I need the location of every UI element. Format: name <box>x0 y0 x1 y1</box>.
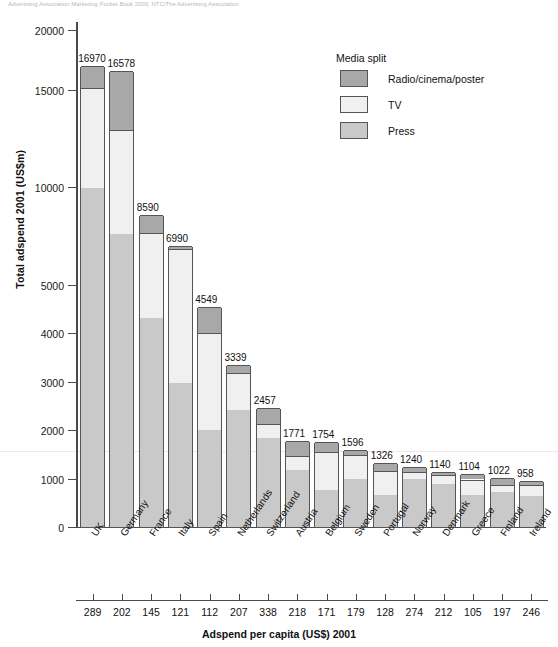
segment-radio-cinema-poster[interactable] <box>461 474 484 480</box>
bar-group[interactable]: 8590 <box>139 22 164 528</box>
x-axis-title: Adspend per capita (US$) 2001 <box>0 628 558 640</box>
bar-group[interactable]: 3339 <box>226 22 251 528</box>
segment-tv[interactable] <box>432 475 455 484</box>
y-tick-label-10000: 10000 <box>2 183 64 193</box>
segment-press[interactable] <box>81 188 104 527</box>
y-tick-label-2000: 2000 <box>2 426 64 436</box>
stacked-bar[interactable] <box>168 247 193 528</box>
legend-label-press: Press <box>388 125 415 137</box>
segment-tv[interactable] <box>403 472 426 479</box>
segment-press[interactable] <box>169 383 192 527</box>
segment-tv[interactable] <box>491 485 514 493</box>
bar-value-label: 958 <box>517 469 534 479</box>
segment-radio-cinema-poster[interactable] <box>81 66 104 87</box>
segment-tv[interactable] <box>344 455 367 479</box>
per-capita-tick <box>531 594 532 601</box>
y-tick-label-1000: 1000 <box>2 475 64 485</box>
bar-value-label: 1022 <box>488 466 510 476</box>
chart-canvas: Advertising Association Marketing Pocket… <box>0 0 558 647</box>
stacked-bar[interactable] <box>226 366 251 528</box>
segment-radio-cinema-poster[interactable] <box>257 408 280 423</box>
segment-tv[interactable] <box>140 233 163 318</box>
y-tick-3000 <box>68 382 76 383</box>
per-capita-tick <box>473 594 474 601</box>
per-capita-axis-line <box>76 600 548 601</box>
segment-radio-cinema-poster[interactable] <box>169 246 192 249</box>
y-tick-10000 <box>68 187 76 188</box>
segment-tv[interactable] <box>257 424 280 438</box>
per-capita-tick <box>356 594 357 601</box>
bar-group[interactable]: 6990 <box>168 22 193 528</box>
segment-tv[interactable] <box>520 485 543 496</box>
segment-press[interactable] <box>110 234 133 527</box>
segment-tv[interactable] <box>110 130 133 234</box>
bar-group[interactable]: 16970 <box>80 22 105 528</box>
legend: Media split Radio/cinema/posterTVPress <box>336 52 526 138</box>
per-capita-tick <box>385 594 386 601</box>
stacked-bar[interactable] <box>109 72 134 528</box>
per-capita-tick <box>210 594 211 601</box>
y-tick-15000 <box>68 90 76 91</box>
per-capita-tick <box>122 594 123 601</box>
segment-radio-cinema-poster[interactable] <box>198 307 221 333</box>
per-capita-tick <box>502 594 503 601</box>
segment-tv[interactable] <box>461 480 484 496</box>
segment-radio-cinema-poster[interactable] <box>374 463 397 471</box>
bar-value-label: 16970 <box>78 54 106 64</box>
legend-label-tv: TV <box>388 99 401 111</box>
bar-value-label: 8590 <box>137 203 159 213</box>
y-axis-tick-labels: 010002000300040005000100001500020000 <box>0 22 64 528</box>
per-capita-tick <box>151 594 152 601</box>
bar-value-label: 1754 <box>312 430 334 440</box>
y-tick-2000 <box>68 430 76 431</box>
per-capita-tick <box>297 594 298 601</box>
segment-radio-cinema-poster[interactable] <box>491 478 514 485</box>
segment-press[interactable] <box>140 318 163 527</box>
segment-tv[interactable] <box>286 456 309 470</box>
segment-radio-cinema-poster[interactable] <box>140 215 163 234</box>
stacked-bar[interactable] <box>197 308 222 528</box>
segment-radio-cinema-poster[interactable] <box>403 467 426 471</box>
segment-press[interactable] <box>227 410 250 527</box>
per-capita-tick <box>268 594 269 601</box>
stacked-bar[interactable] <box>139 216 164 528</box>
bar-value-label: 1326 <box>371 451 393 461</box>
segment-radio-cinema-poster[interactable] <box>315 442 338 452</box>
stacked-bar[interactable] <box>80 67 105 528</box>
segment-tv[interactable] <box>374 471 397 495</box>
segment-radio-cinema-poster[interactable] <box>286 441 309 456</box>
per-capita-tick <box>414 594 415 601</box>
segment-tv[interactable] <box>227 373 250 410</box>
bar-group[interactable]: 1771 <box>285 22 310 528</box>
segment-radio-cinema-poster[interactable] <box>227 365 250 373</box>
legend-swatch-radio <box>340 70 368 87</box>
segment-radio-cinema-poster[interactable] <box>344 450 367 456</box>
bar-value-label: 2457 <box>254 396 276 406</box>
y-tick-label-4000: 4000 <box>2 329 64 339</box>
segment-tv[interactable] <box>315 452 338 490</box>
legend-swatch-tv <box>340 96 368 113</box>
bar-group[interactable]: 4549 <box>197 22 222 528</box>
segment-radio-cinema-poster[interactable] <box>110 71 133 130</box>
y-tick-20000 <box>68 30 76 31</box>
segment-tv[interactable] <box>198 333 221 430</box>
bar-value-label: 3339 <box>224 353 246 363</box>
bar-value-label: 1240 <box>400 455 422 465</box>
segment-radio-cinema-poster[interactable] <box>432 472 455 475</box>
bar-value-label: 4549 <box>195 295 217 305</box>
y-tick-0 <box>68 527 76 528</box>
y-tick-label-15000: 15000 <box>2 86 64 96</box>
segment-tv[interactable] <box>169 249 192 382</box>
bar-value-label: 1771 <box>283 429 305 439</box>
bar-group[interactable]: 16578 <box>109 22 134 528</box>
per-capita-value: 246 <box>511 606 551 618</box>
bar-value-label: 1104 <box>458 462 480 472</box>
bar-group[interactable]: 2457 <box>256 22 281 528</box>
segment-radio-cinema-poster[interactable] <box>520 481 543 485</box>
y-tick-5000 <box>68 285 76 286</box>
legend-label-radio: Radio/cinema/poster <box>388 73 484 85</box>
bar-value-label: 1596 <box>341 438 363 448</box>
segment-tv[interactable] <box>81 88 104 188</box>
bar-value-label: 1140 <box>429 460 451 470</box>
bar-value-label: 6990 <box>166 234 188 244</box>
